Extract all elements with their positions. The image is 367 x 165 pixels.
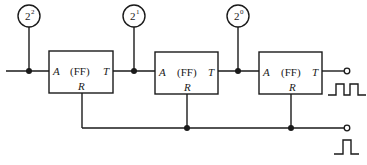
junction-dot — [131, 68, 137, 74]
svg-text:A: A — [158, 66, 166, 78]
svg-text:(FF): (FF) — [70, 65, 90, 78]
junction-dot — [184, 125, 190, 131]
indicator-2-1: 2 1 — [123, 5, 145, 27]
svg-text:(FF): (FF) — [281, 66, 301, 79]
svg-text:R: R — [77, 80, 85, 92]
svg-text:R: R — [183, 81, 191, 93]
counter-circuit-diagram: 2 2 2 1 2 0 A (FF) T R A (FF) T R A (FF)… — [0, 0, 367, 165]
svg-text:0: 0 — [240, 8, 244, 16]
square-wave-icon — [328, 84, 366, 95]
svg-text:(FF): (FF) — [177, 66, 197, 79]
svg-text:R: R — [288, 81, 296, 93]
svg-text:2: 2 — [234, 10, 240, 22]
junction-dot — [235, 68, 241, 74]
junction-dot — [288, 125, 294, 131]
indicator-2-2: 2 2 — [18, 5, 40, 27]
svg-text:T: T — [312, 66, 319, 78]
junction-dot — [26, 68, 32, 74]
flip-flop-1: A (FF) T R — [49, 51, 113, 93]
reset-terminal — [344, 125, 350, 131]
flip-flop-3: A (FF) T R — [259, 52, 322, 94]
svg-text:T: T — [103, 65, 110, 77]
svg-text:A: A — [52, 65, 60, 77]
flip-flop-2: A (FF) T R — [155, 52, 218, 94]
svg-text:1: 1 — [136, 8, 140, 16]
indicator-2-0: 2 0 — [227, 5, 249, 27]
single-pulse-icon — [334, 140, 359, 154]
svg-text:A: A — [262, 66, 270, 78]
svg-text:2: 2 — [130, 10, 136, 22]
svg-text:T: T — [208, 66, 215, 78]
output-terminal — [344, 68, 350, 74]
svg-text:2: 2 — [31, 8, 35, 16]
svg-text:2: 2 — [25, 10, 31, 22]
